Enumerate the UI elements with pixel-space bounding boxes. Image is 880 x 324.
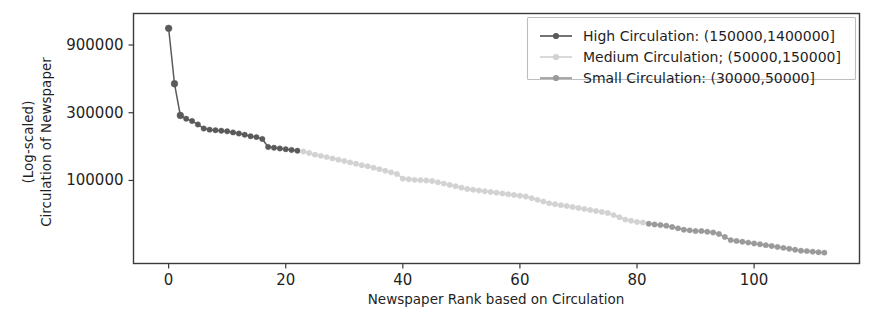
y-tick-label: 900000 — [66, 36, 123, 54]
data-point — [787, 246, 792, 251]
data-point — [652, 222, 657, 227]
data-point — [804, 248, 809, 253]
data-point — [705, 229, 710, 234]
data-point — [324, 154, 329, 159]
data-point — [769, 243, 774, 248]
data-point — [219, 128, 224, 133]
x-tick-label: 60 — [510, 271, 529, 289]
legend-label: Medium Circulation; (50000,150000] — [583, 49, 841, 65]
data-point — [722, 234, 727, 239]
x-tick-label: 40 — [393, 271, 412, 289]
data-point — [675, 226, 680, 231]
data-point — [529, 195, 534, 200]
data-point — [301, 149, 306, 154]
data-point — [751, 241, 756, 246]
legend-label: Small Circulation: (30000,50000] — [583, 70, 815, 86]
data-point — [816, 250, 821, 255]
data-point — [810, 249, 815, 254]
data-point — [476, 188, 481, 193]
data-point — [377, 167, 382, 172]
x-tick-label: 100 — [740, 271, 769, 289]
data-point — [757, 242, 762, 247]
data-point — [453, 184, 458, 189]
data-point — [359, 163, 364, 168]
data-point — [628, 218, 633, 223]
data-point — [640, 220, 645, 225]
data-point — [523, 194, 528, 199]
data-point — [248, 134, 253, 139]
data-point — [441, 181, 446, 186]
legend-entry-0[interactable]: High Circulation: (150000,1400000] — [540, 28, 835, 44]
data-point — [277, 146, 282, 151]
data-point — [599, 209, 604, 214]
data-point — [792, 247, 797, 252]
data-point — [224, 129, 229, 134]
data-point — [400, 176, 405, 181]
data-point — [494, 190, 499, 195]
data-point — [165, 25, 172, 32]
legend-marker — [553, 54, 559, 60]
data-point — [611, 212, 616, 217]
data-point — [541, 199, 546, 204]
data-point — [260, 136, 265, 141]
legend-marker — [553, 33, 559, 39]
data-point — [254, 134, 259, 139]
data-point — [242, 132, 247, 137]
data-point — [687, 228, 692, 233]
data-point — [699, 228, 704, 233]
data-point — [388, 170, 393, 175]
data-point — [394, 171, 399, 176]
data-point — [587, 207, 592, 212]
y-axis-title-line2: Circulation of Newspaper — [38, 57, 54, 227]
data-point — [347, 160, 352, 165]
data-point — [576, 205, 581, 210]
chart-canvas: 020406080100 100000300000900000 Newspape… — [0, 0, 880, 324]
data-point — [746, 240, 751, 245]
data-point — [506, 192, 511, 197]
data-point — [728, 237, 733, 242]
data-point — [763, 242, 768, 247]
data-point — [482, 189, 487, 194]
y-tick-label: 100000 — [66, 171, 123, 189]
data-point — [330, 156, 335, 161]
data-point — [465, 186, 470, 191]
data-point — [664, 223, 669, 228]
legend-label: High Circulation: (150000,1400000] — [583, 28, 835, 44]
data-point — [681, 227, 686, 232]
y-tick-label: 300000 — [66, 104, 123, 122]
data-point — [511, 192, 516, 197]
data-point — [365, 164, 370, 169]
data-point — [459, 185, 464, 190]
data-point — [201, 126, 206, 131]
data-point — [342, 158, 347, 163]
data-point — [353, 161, 358, 166]
legend-entries: High Circulation: (150000,1400000]Medium… — [540, 28, 841, 86]
data-point — [740, 239, 745, 244]
data-point — [171, 80, 178, 87]
data-point — [306, 150, 311, 155]
y-axis-title-line1: (Log-scaled) — [20, 101, 36, 184]
data-point — [564, 203, 569, 208]
legend-entry-1[interactable]: Medium Circulation; (50000,150000] — [540, 49, 841, 65]
legend-marker — [553, 75, 559, 81]
data-point — [775, 244, 780, 249]
data-point — [710, 230, 715, 235]
data-point — [383, 168, 388, 173]
data-point — [646, 221, 651, 226]
data-point — [734, 238, 739, 243]
data-point — [570, 204, 575, 209]
data-point — [336, 157, 341, 162]
chart-legend[interactable]: High Circulation: (150000,1400000]Medium… — [528, 18, 856, 87]
data-point — [312, 152, 317, 157]
data-point — [295, 148, 300, 153]
data-point — [546, 201, 551, 206]
data-point — [424, 178, 429, 183]
data-point — [435, 180, 440, 185]
data-point — [558, 202, 563, 207]
data-point — [447, 182, 452, 187]
data-point — [371, 165, 376, 170]
data-point — [318, 153, 323, 158]
data-point — [500, 191, 505, 196]
data-point — [658, 222, 663, 227]
data-point — [582, 206, 587, 211]
